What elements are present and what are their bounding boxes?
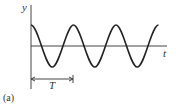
period-label: T bbox=[49, 79, 56, 91]
waveform-diagram: y t T (a) bbox=[0, 0, 181, 109]
y-axis-label: y bbox=[21, 1, 27, 13]
panel-label: (a) bbox=[3, 92, 14, 104]
t-axis-label: t bbox=[163, 47, 167, 59]
